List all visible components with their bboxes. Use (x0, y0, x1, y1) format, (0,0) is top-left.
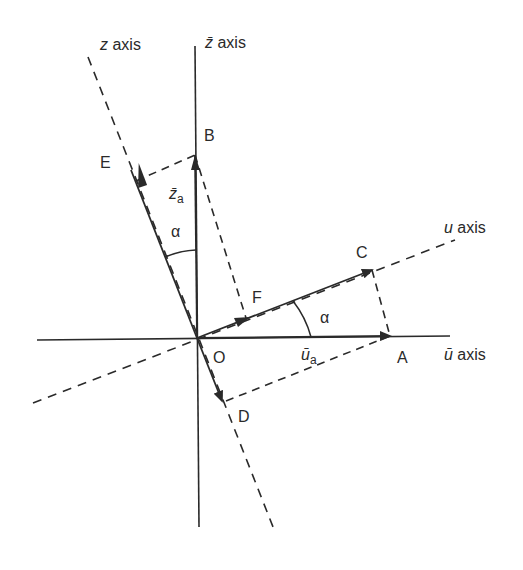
vector-O-E (131, 170, 197, 338)
z-bar-a-label: z̄a (168, 185, 184, 206)
point-label-A: A (397, 349, 408, 366)
point-label-E: E (100, 154, 111, 171)
z-bar-axis-label: z̄ axis (204, 34, 246, 51)
z-axis-line (88, 57, 275, 532)
vector-O-A (197, 336, 390, 338)
u-axis-label: u axis (444, 219, 486, 236)
alpha-label-top: α (171, 223, 180, 240)
point-label-F: F (252, 289, 262, 306)
point-label-D: D (238, 408, 250, 425)
projection-E-B (136, 155, 195, 181)
u-bar-a-label: ūa (301, 346, 317, 367)
angle-arc-top (165, 250, 196, 257)
rotation-diagram: z axis z̄ axis u axis ū axis B E C F O A… (0, 0, 523, 570)
projection-C-A (372, 270, 390, 336)
arrow-at-E (138, 163, 147, 188)
point-label-O: O (213, 349, 225, 366)
u-bar-axis-label: ū axis (444, 346, 486, 363)
angle-arc-right (293, 301, 311, 337)
point-label-B: B (204, 127, 215, 144)
projection-B-F (195, 155, 246, 318)
arrow-at-F (234, 317, 250, 327)
vector-O-D (197, 338, 222, 401)
arrow-at-B (191, 155, 200, 170)
vector-O-C (197, 270, 372, 338)
alpha-label-right: α (320, 309, 329, 326)
z-axis-label: z axis (99, 36, 141, 53)
point-label-C: C (356, 244, 368, 261)
